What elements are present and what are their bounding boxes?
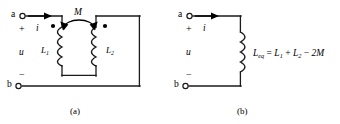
current-label-i: i	[203, 24, 206, 34]
voltage-label-u: u	[186, 48, 191, 58]
dot-marker-l1	[51, 24, 55, 28]
terminal-label-a: a	[178, 10, 182, 20]
dot-marker-l2	[103, 24, 107, 28]
eq-term1-name: L	[274, 48, 279, 58]
circuit-b-svg	[170, 0, 340, 124]
voltage-label-u: u	[19, 48, 24, 58]
terminal-a-node	[20, 13, 25, 18]
polarity-plus-a: +	[19, 24, 25, 34]
polarity-plus-b: +	[186, 24, 192, 34]
eq-lhs-subscript: eq	[258, 52, 264, 59]
coil-l2	[92, 27, 97, 66]
coil-l2-subscript: 2	[111, 50, 114, 56]
polarity-minus-a: −	[19, 70, 25, 80]
terminal-b-node	[16, 83, 21, 88]
figure-root: a + − b i u M L1 L2 (a)	[0, 0, 340, 124]
panel-caption-b: (b)	[237, 106, 248, 116]
coil-label-l2: L2	[106, 46, 114, 55]
terminal-b-node	[183, 83, 188, 88]
current-arrow-i	[28, 12, 52, 19]
mutual-inductance-label-m: M	[74, 8, 82, 18]
coil-label-l1: L1	[41, 46, 49, 55]
equivalent-inductance-equation: Leq = L1 + L2 − 2M	[253, 49, 324, 59]
circuit-diagram-b: a + − b i u Leq = L1 + L2 − 2M (b)	[170, 0, 340, 124]
terminal-label-b: b	[174, 80, 179, 90]
coil-leq	[240, 32, 245, 72]
eq-term2-subscript: 2	[298, 52, 301, 59]
coil-l1	[58, 27, 63, 66]
coil-l1-subscript: 1	[46, 50, 49, 56]
terminal-a-node	[187, 13, 192, 18]
eq-term1-subscript: 1	[280, 52, 283, 59]
panel-caption-a: (a)	[70, 106, 80, 116]
circuit-a-svg	[0, 0, 170, 124]
current-arrow-i	[195, 12, 219, 19]
circuit-diagram-a: a + − b i u M L1 L2 (a)	[0, 0, 170, 124]
eq-term3: 2M	[311, 48, 324, 58]
terminal-label-b: b	[7, 80, 12, 90]
current-label-i: i	[36, 24, 39, 34]
terminal-label-a: a	[11, 10, 15, 20]
polarity-minus-b: −	[186, 70, 192, 80]
mutual-coupling-arrow	[60, 20, 98, 30]
